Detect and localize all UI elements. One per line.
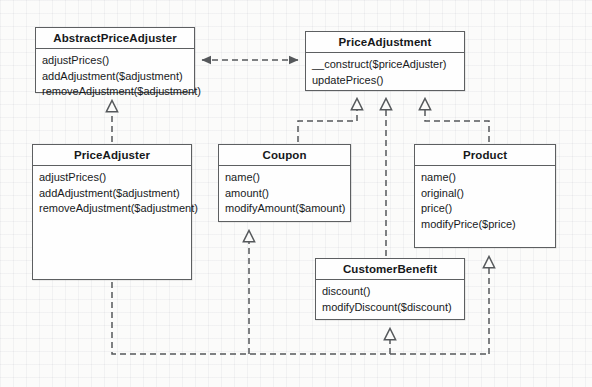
uml-method: __construct($priceAdjuster) [312, 57, 464, 73]
uml-diagram-canvas: PriceAdjustment --> AbstractPriceAdjuste… [0, 0, 592, 387]
uml-method-list-product: name()original()price()modifyPrice($pric… [415, 166, 555, 235]
uml-class-customer-benefit[interactable]: CustomerBenefitdiscount()modifyDiscount(… [315, 258, 465, 320]
uml-method: modifyDiscount($discount) [322, 300, 464, 316]
uml-method-list-coupon: name()amount()modifyAmount($amount) [219, 166, 350, 220]
uml-class-name-product: Product [415, 145, 555, 166]
uml-method: adjustPrices() [39, 170, 191, 186]
uml-class-product[interactable]: Productname()original()price()modifyPric… [414, 144, 556, 248]
uml-method-list-price-adjustment: __construct($priceAdjuster)updatePrices(… [306, 53, 464, 91]
uml-method: addAdjustment($adjustment) [39, 186, 191, 202]
uml-class-abstract-price-adjuster[interactable]: AbstractPriceAdjusteradjustPrices()addAd… [35, 27, 195, 93]
relation-coupon-to-priceadjustment [298, 99, 357, 142]
uml-class-name-price-adjuster: PriceAdjuster [33, 145, 191, 166]
uml-method-list-customer-benefit: discount()modifyDiscount($discount) [316, 280, 464, 318]
uml-method: modifyPrice($price) [421, 217, 555, 233]
uml-method: name() [225, 170, 350, 186]
uml-class-name-abstract-price-adjuster: AbstractPriceAdjuster [36, 28, 194, 49]
uml-method: adjustPrices() [42, 53, 194, 69]
uml-method: discount() [322, 284, 464, 300]
uml-class-name-customer-benefit: CustomerBenefit [316, 259, 464, 280]
uml-class-coupon[interactable]: Couponname()amount()modifyAmount($amount… [218, 144, 351, 222]
uml-class-name-coupon: Coupon [219, 145, 350, 166]
uml-method: updatePrices() [312, 73, 464, 89]
relation-product-to-priceadjustment [425, 99, 489, 142]
uml-method-list-abstract-price-adjuster: adjustPrices()addAdjustment($adjustment)… [36, 49, 194, 103]
uml-method: addAdjustment($adjustment) [42, 69, 194, 85]
uml-method-list-price-adjuster: adjustPrices()addAdjustment($adjustment)… [33, 166, 191, 220]
uml-class-name-price-adjustment: PriceAdjustment [306, 32, 464, 53]
uml-class-price-adjuster[interactable]: PriceAdjusteradjustPrices()addAdjustment… [32, 144, 192, 280]
uml-method: name() [421, 170, 555, 186]
uml-method: amount() [225, 186, 350, 202]
uml-method: price() [421, 201, 555, 217]
uml-method: removeAdjustment($adjustment) [39, 201, 191, 217]
uml-method: original() [421, 186, 555, 202]
uml-method: modifyAmount($amount) [225, 201, 350, 217]
uml-method: removeAdjustment($adjustment) [42, 84, 194, 100]
uml-class-price-adjustment[interactable]: PriceAdjustment__construct($priceAdjuste… [305, 31, 465, 91]
